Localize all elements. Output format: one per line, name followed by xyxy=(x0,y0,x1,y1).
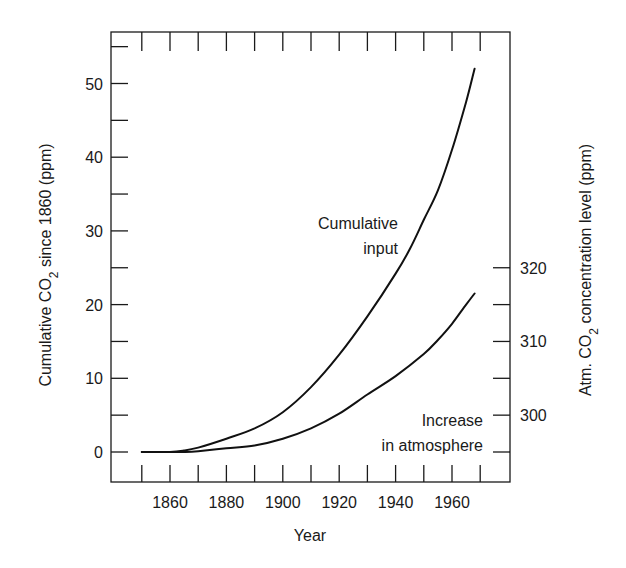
left-tick-label: 0 xyxy=(94,444,103,461)
bottom-tick-label: 1920 xyxy=(321,494,357,511)
bottom-tick-label: 1900 xyxy=(265,494,301,511)
right-axis-ticks xyxy=(493,268,510,452)
left-tick-label: 20 xyxy=(85,297,103,314)
right-tick-label: 320 xyxy=(520,260,547,277)
bottom-tick-label: 1940 xyxy=(378,494,414,511)
right-axis-tick-labels: 300310320 xyxy=(520,260,547,424)
y-axis-title-right: Atm. CO2 concentration level (ppm) xyxy=(577,144,601,396)
left-tick-label: 30 xyxy=(85,223,103,240)
left-axis-tick-labels: 01020304050 xyxy=(85,76,103,462)
right-tick-label: 300 xyxy=(520,407,547,424)
x-axis-title: Year xyxy=(294,527,327,544)
annotation-cumulative-line1: Cumulative xyxy=(318,215,398,232)
annotation-atmosphere-line2: in atmosphere xyxy=(382,437,483,454)
co2-chart: 01020304050 300310320 186018801900192019… xyxy=(0,0,626,568)
left-tick-label: 10 xyxy=(85,370,103,387)
bottom-axis-tick-labels: 186018801900192019401960 xyxy=(152,494,470,511)
left-tick-label: 40 xyxy=(85,149,103,166)
left-tick-label: 50 xyxy=(85,76,103,93)
y-axis-title-left: Cumulative CO2 since 1860 (ppm) xyxy=(37,143,61,386)
left-axis-ticks xyxy=(111,47,128,452)
cumulative-input-line xyxy=(142,69,475,452)
bottom-tick-label: 1880 xyxy=(209,494,245,511)
annotation-atmosphere-line1: Increase xyxy=(422,412,483,429)
bottom-tick-label: 1860 xyxy=(152,494,188,511)
top-axis-ticks xyxy=(142,32,480,51)
bottom-axis-ticks xyxy=(142,465,480,482)
right-tick-label: 310 xyxy=(520,333,547,350)
bottom-tick-label: 1960 xyxy=(434,494,470,511)
annotation-cumulative-line2: input xyxy=(363,240,398,257)
